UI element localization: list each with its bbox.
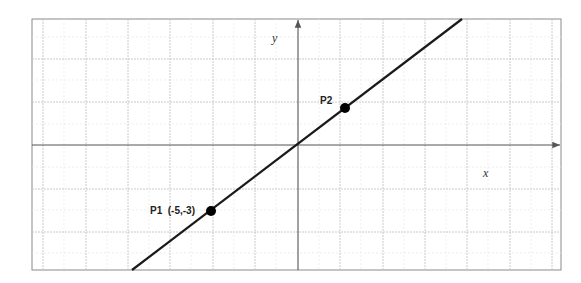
- coordinate-plane: y x P1 (-5,-3) P2: [0, 0, 581, 283]
- point-p1-label: P1 (-5,-3): [150, 205, 195, 216]
- y-axis-label: y: [271, 31, 278, 45]
- x-axis-label: x: [482, 166, 489, 180]
- point-p2: [340, 103, 350, 113]
- point-p1: [206, 206, 216, 216]
- point-p2-label: P2: [320, 95, 333, 106]
